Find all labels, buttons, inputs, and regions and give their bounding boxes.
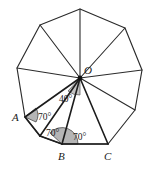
label-angle-a-70: 70° [38,112,52,122]
decagon-diagram: O A B C 40° 70° 70° 70° [0,0,156,176]
label-angle-40: 40° [59,94,73,104]
label-angle-b-upper-70: 70° [46,128,60,138]
label-angle-b-right-70: 70° [73,132,87,142]
label-o: O [84,64,92,76]
label-a: A [11,111,19,123]
label-b: B [58,150,65,162]
radius-o-v8 [17,68,80,78]
radius-o-v3 [80,78,135,110]
radius-o-v7 [40,25,80,78]
geometry-figure: O A B C 40° 70° 70° 70° [0,0,156,176]
center-point-o [78,76,83,81]
label-c: C [104,150,112,162]
